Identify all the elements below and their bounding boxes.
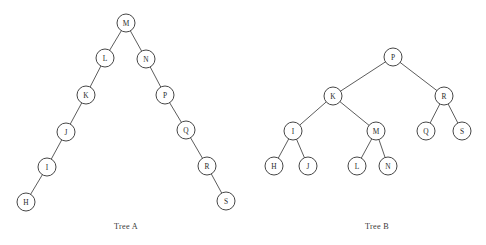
- node-label: J: [65, 128, 68, 137]
- node-label: L: [103, 54, 108, 63]
- node-label: R: [205, 162, 210, 171]
- tree-a-edges: [31, 31, 222, 195]
- node-label: S: [224, 197, 228, 206]
- tree-a-caption: Tree A: [114, 222, 138, 231]
- tree-node-r[interactable]: R: [435, 87, 453, 105]
- captions-layer: Tree ATree B: [114, 222, 389, 231]
- tree-edge: [361, 139, 371, 158]
- tree-edge: [400, 62, 437, 90]
- tree-node-m[interactable]: M: [367, 122, 385, 140]
- tree-node-l[interactable]: L: [96, 49, 114, 67]
- tree-edge: [51, 140, 61, 159]
- binary-tree-figure: MLNKPJQIRHSPKRIMQSHJLN Tree ATree B: [0, 0, 486, 245]
- tree-edge: [130, 31, 141, 51]
- tree-node-l[interactable]: L: [348, 157, 366, 175]
- tree-node-m[interactable]: M: [117, 14, 135, 32]
- tree-b-edges: [278, 62, 458, 158]
- tree-node-k[interactable]: K: [324, 87, 342, 105]
- tree-edge: [278, 139, 288, 158]
- node-label: Q: [423, 127, 429, 136]
- tree-node-h[interactable]: H: [17, 193, 35, 211]
- tree-node-p[interactable]: P: [156, 86, 174, 104]
- tree-node-h[interactable]: H: [265, 157, 283, 175]
- nodes-layer: MLNKPJQIRHSPKRIMQSHJLN: [17, 14, 471, 211]
- tree-edge: [211, 174, 221, 193]
- tree-b-nodes: PKRIMQSHJLN: [265, 48, 471, 175]
- node-label: S: [460, 127, 464, 136]
- tree-node-q[interactable]: Q: [177, 121, 195, 139]
- node-label: N: [385, 162, 391, 171]
- tree-edge: [300, 102, 326, 125]
- node-label: M: [123, 19, 130, 28]
- node-label: M: [373, 127, 380, 136]
- tree-edge: [191, 138, 203, 158]
- tree-node-n[interactable]: N: [137, 50, 155, 68]
- tree-node-j[interactable]: J: [57, 123, 75, 141]
- node-label: K: [330, 92, 336, 101]
- tree-b-caption: Tree B: [365, 222, 389, 231]
- tree-edge: [448, 104, 458, 123]
- tree-node-j[interactable]: J: [299, 157, 317, 175]
- tree-edge: [90, 66, 101, 87]
- tree-edge: [379, 140, 385, 158]
- tree-edge: [170, 103, 182, 123]
- node-label: Q: [183, 126, 189, 135]
- tree-edge: [340, 102, 369, 126]
- tree-node-k[interactable]: K: [77, 86, 95, 104]
- node-label: L: [355, 162, 360, 171]
- node-label: R: [442, 92, 447, 101]
- tree-node-i[interactable]: I: [284, 122, 302, 140]
- node-label: H: [271, 162, 277, 171]
- tree-node-n[interactable]: N: [379, 157, 397, 175]
- tree-edge: [110, 31, 122, 51]
- tree-edge: [150, 67, 161, 87]
- tree-edge: [341, 62, 386, 91]
- tree-node-s[interactable]: S: [453, 122, 471, 140]
- tree-node-i[interactable]: I: [38, 158, 56, 176]
- tree-edge: [31, 175, 43, 195]
- tree-diagram-canvas: MLNKPJQIRHSPKRIMQSHJLN Tree ATree B: [0, 0, 486, 245]
- tree-node-p[interactable]: P: [384, 48, 402, 66]
- tree-node-r[interactable]: R: [198, 157, 216, 175]
- node-label: P: [163, 91, 167, 100]
- tree-node-q[interactable]: Q: [417, 122, 435, 140]
- node-label: J: [307, 162, 310, 171]
- tree-node-s[interactable]: S: [217, 192, 235, 210]
- node-label: N: [143, 55, 149, 64]
- tree-edge: [430, 104, 440, 123]
- node-label: K: [83, 91, 89, 100]
- node-label: H: [23, 198, 29, 207]
- tree-edge: [297, 139, 305, 157]
- tree-edge: [70, 103, 81, 124]
- tree-a-nodes: MLNKPJQIRHS: [17, 14, 235, 211]
- node-label: P: [391, 53, 395, 62]
